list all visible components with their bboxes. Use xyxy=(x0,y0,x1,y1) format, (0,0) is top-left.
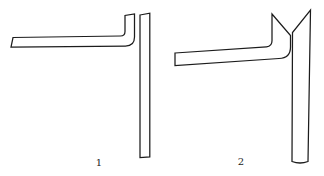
figure-1-group: 1 xyxy=(11,13,150,168)
figure-2-label: 2 xyxy=(238,156,244,167)
fig2-bent-tube-outline xyxy=(175,14,291,66)
figure-1-label: 1 xyxy=(96,157,102,168)
tube-diagram-canvas: 1 2 xyxy=(0,0,324,176)
figure-2-group: 2 xyxy=(175,10,311,167)
diagram-page: 1 2 xyxy=(0,0,324,176)
ink-group: 1 2 xyxy=(11,10,311,168)
fig1-straight-tube-outline xyxy=(140,13,150,157)
fig1-bent-tube-outline xyxy=(11,14,135,47)
fig2-straight-tube-outline xyxy=(292,10,311,163)
